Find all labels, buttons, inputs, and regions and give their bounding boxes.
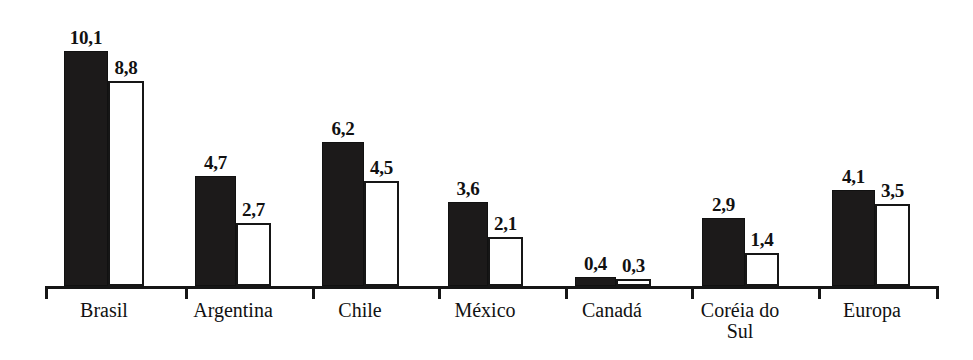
- x-axis-tick-5: [691, 286, 694, 299]
- bar-value-label-series-1-0: 10,1: [60, 28, 112, 47]
- bar-value-label-series-2-0: 8,8: [104, 58, 148, 77]
- bar-value-label-series-2-2: 4,5: [360, 158, 403, 177]
- bar-argentina-series-1: [195, 176, 236, 286]
- bar-value-label-series-1-2: 6,2: [318, 119, 368, 138]
- bar-value-label-series-2-5: 1,4: [741, 230, 783, 249]
- bar-brasil-series-2: [108, 81, 144, 286]
- bar-coréia-do-sul-series-2: [745, 253, 779, 286]
- category-label-europa: Europa: [782, 300, 962, 321]
- bar-europa-series-1: [832, 190, 875, 286]
- bar-value-label-series-1-3: 3,6: [444, 179, 492, 198]
- x-axis-tick-7: [936, 286, 939, 299]
- bar-canadá-series-2: [616, 279, 651, 286]
- x-axis-tick-1: [185, 286, 188, 299]
- bar-coréia-do-sul-series-1: [702, 218, 745, 286]
- bar-value-label-series-2-3: 2,1: [484, 214, 527, 233]
- x-axis-tick-0: [45, 286, 48, 299]
- x-axis-tick-6: [818, 286, 821, 299]
- bar-argentina-series-2: [236, 223, 271, 286]
- bar-value-label-series-1-1: 4,7: [191, 153, 240, 172]
- bar-brasil-series-1: [64, 51, 108, 286]
- bar-chart: 10,18,8Brasil4,72,7Argentina6,24,5Chile3…: [0, 0, 973, 360]
- bar-europa-series-2: [875, 204, 910, 286]
- bar-méxico-series-2: [488, 237, 523, 286]
- bar-méxico-series-1: [448, 202, 488, 286]
- bar-value-label-series-2-4: 0,3: [612, 256, 655, 275]
- bar-canadá-series-1: [575, 277, 616, 286]
- x-axis-tick-3: [438, 286, 441, 299]
- x-axis-line: [45, 286, 936, 289]
- x-axis-tick-2: [312, 286, 315, 299]
- plot-area: 10,18,8Brasil4,72,7Argentina6,24,5Chile3…: [0, 0, 973, 360]
- bar-value-label-series-2-6: 3,5: [871, 181, 914, 200]
- bar-value-label-series-2-1: 2,7: [232, 200, 275, 219]
- x-axis-tick-4: [565, 286, 568, 299]
- bar-chile-series-2: [364, 181, 399, 286]
- bar-value-label-series-1-5: 2,9: [698, 195, 749, 214]
- bar-chile-series-1: [322, 142, 364, 286]
